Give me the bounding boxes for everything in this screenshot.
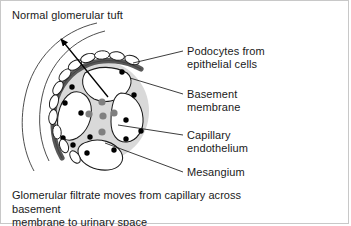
label-podocytes: Podocytes from epithelial cells: [187, 45, 265, 70]
mesangial-cell: [98, 128, 105, 135]
label-basement-membrane: Basement membrane: [187, 88, 240, 113]
endothelial-dot: [87, 134, 92, 139]
endothelial-dot: [78, 110, 83, 115]
label-podocytes-line2: epithelial cells: [187, 58, 257, 70]
endothelial-dot: [123, 117, 128, 122]
figure-panel: Normal glomerular tuft: [0, 0, 349, 224]
endothelial-dot: [111, 147, 116, 152]
label-mesangium-line1: Mesangium: [187, 166, 245, 178]
endothelial-dot: [84, 150, 89, 155]
label-podocytes-line1: Podocytes from: [187, 45, 265, 57]
label-capillary-line2: endothelium: [187, 142, 248, 154]
mesangial-cell: [110, 109, 117, 116]
figure-caption: Glomerular filtrate moves from capillary…: [12, 189, 262, 226]
label-mesangium: Mesangium: [187, 166, 245, 179]
leader-podocytes: [133, 51, 183, 63]
caption-line1: Glomerular filtrate moves from capillary…: [12, 189, 262, 216]
endothelial-dot: [131, 92, 136, 97]
endothelial-dot: [70, 142, 75, 147]
endothelial-dot: [62, 100, 67, 105]
endothelial-dot: [69, 84, 74, 89]
mesangial-cell: [99, 112, 106, 119]
endothelial-dot: [119, 69, 124, 74]
mesangial-cell: [85, 110, 92, 117]
label-basement-line2: membrane: [187, 101, 240, 113]
mesangial-cell: [98, 98, 105, 105]
caption-line2: membrane to urinary space: [12, 216, 262, 226]
label-capillary-line1: Capillary: [187, 129, 231, 141]
label-capillary-endothelium: Capillary endothelium: [187, 129, 248, 154]
label-basement-line1: Basement: [187, 88, 237, 100]
endothelial-dot: [123, 136, 128, 141]
